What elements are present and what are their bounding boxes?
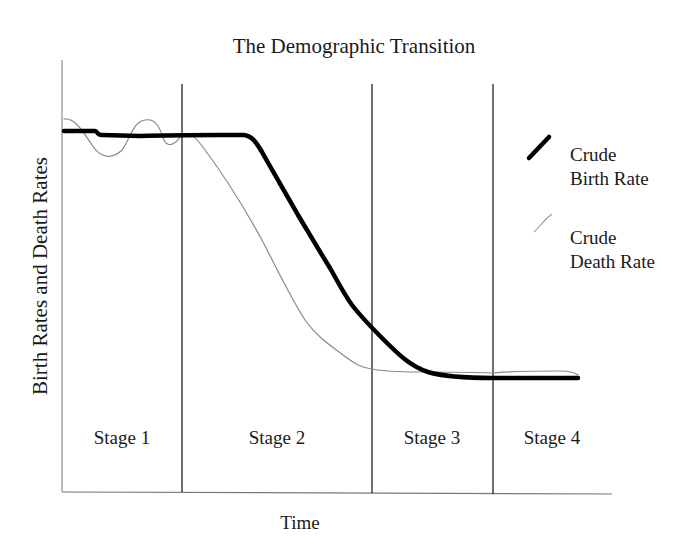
x-axis	[62, 492, 612, 494]
legend-birth-line2: Birth Rate	[570, 167, 649, 191]
chart-title: The Demographic Transition	[0, 34, 682, 59]
stage-3-label: Stage 3	[404, 427, 460, 449]
legend-birth-symbol-icon	[529, 137, 549, 158]
death-rate-line	[64, 119, 578, 375]
legend-death-line1: Crude	[570, 226, 616, 250]
stage-4-label: Stage 4	[524, 427, 580, 449]
stage-2-label: Stage 2	[249, 427, 305, 449]
legend-birth-line1: Crude	[570, 143, 616, 167]
stage-1-label: Stage 1	[94, 427, 150, 449]
legend-death-line2: Death Rate	[570, 250, 655, 274]
legend-death-symbol-icon	[534, 214, 552, 232]
x-axis-label: Time	[280, 512, 319, 534]
birth-rate-line	[64, 131, 578, 378]
y-axis-label: Birth Rates and Death Rates	[28, 157, 53, 395]
